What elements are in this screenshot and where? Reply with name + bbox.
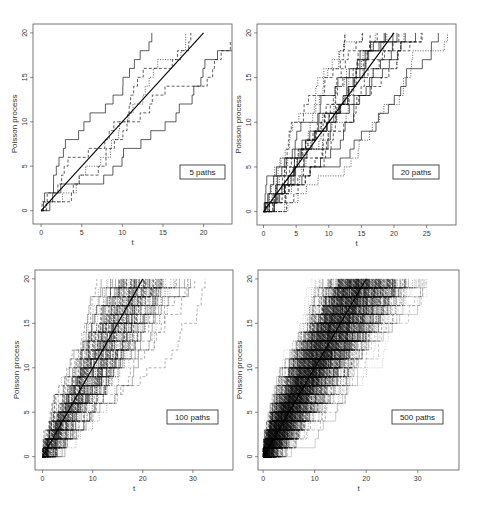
y-tick-label: 0 <box>246 455 253 459</box>
legend-box: 100 paths <box>167 410 218 424</box>
x-axis-label: t <box>133 484 136 493</box>
y-tick-label: 0 <box>245 210 252 214</box>
legend-box: 5 paths <box>180 165 225 179</box>
x-axis-label: t <box>357 484 360 493</box>
legend-box: 20 paths <box>393 165 439 179</box>
x-tick-label: 10 <box>118 229 126 236</box>
x-tick-label: 0 <box>261 475 265 482</box>
x-tick-label: 20 <box>362 475 370 482</box>
x-tick-label: 30 <box>189 475 197 482</box>
paths-group <box>263 279 427 457</box>
mean-line <box>41 33 203 211</box>
x-axis-label: t <box>355 239 358 248</box>
y-axis-label: Poisson process <box>12 341 21 400</box>
x-tick-label: 20 <box>200 229 208 236</box>
legend-label: 5 paths <box>189 168 215 177</box>
x-tick-label: 15 <box>357 230 365 237</box>
mean-line <box>43 279 143 457</box>
x-tick-label: 0 <box>41 475 45 482</box>
x-tick-label: 10 <box>325 230 333 237</box>
y-tick-label: 10 <box>246 364 253 372</box>
y-tick-label: 20 <box>245 29 252 37</box>
legend-label: 20 paths <box>401 168 432 177</box>
y-tick-label: 5 <box>23 410 30 414</box>
y-tick-label: 15 <box>23 319 30 327</box>
paths-group <box>264 33 448 212</box>
x-tick-label: 0 <box>39 229 43 236</box>
chart-panel-4: 010203005101520tPoisson process500 paths <box>235 270 459 493</box>
y-tick-label: 20 <box>21 29 28 37</box>
x-tick-label: 30 <box>414 475 422 482</box>
legend-label: 500 paths <box>400 413 435 422</box>
chart-panel-2: 051015202505101520tPoisson process20 pat… <box>234 24 456 248</box>
paths-group <box>43 279 206 457</box>
figure: 0510152005101520tPoisson process5 paths0… <box>0 0 480 511</box>
y-axis-label: Poisson process <box>234 95 243 154</box>
x-tick-label: 15 <box>159 229 167 236</box>
chart-panel-1: 0510152005101520tPoisson process5 paths <box>10 24 249 247</box>
x-tick-label: 10 <box>89 475 97 482</box>
y-axis-label: Poisson process <box>10 95 19 154</box>
plot-frame <box>257 24 456 225</box>
legend-label: 100 paths <box>175 413 210 422</box>
chart-panel-3: 010203005101520tPoisson process100 paths <box>12 270 233 493</box>
x-tick-label: 0 <box>262 230 266 237</box>
x-tick-label: 5 <box>294 230 298 237</box>
y-tick-label: 0 <box>21 209 28 213</box>
y-tick-label: 15 <box>21 73 28 81</box>
y-tick-label: 15 <box>246 319 253 327</box>
y-axis-label: Poisson process <box>235 341 244 400</box>
paths-group <box>41 33 249 211</box>
y-tick-label: 0 <box>23 455 30 459</box>
y-tick-label: 10 <box>23 364 30 372</box>
y-tick-label: 15 <box>245 74 252 82</box>
y-tick-label: 20 <box>23 275 30 283</box>
x-axis-label: t <box>131 238 134 247</box>
x-tick-label: 20 <box>390 230 398 237</box>
y-tick-label: 5 <box>245 165 252 169</box>
y-tick-label: 5 <box>246 410 253 414</box>
x-tick-label: 5 <box>80 229 84 236</box>
y-tick-label: 10 <box>21 118 28 126</box>
legend-box: 500 paths <box>392 410 443 424</box>
x-tick-label: 25 <box>423 230 431 237</box>
y-tick-label: 20 <box>246 275 253 283</box>
x-tick-label: 10 <box>311 475 319 482</box>
x-tick-label: 20 <box>139 475 147 482</box>
y-tick-label: 5 <box>21 164 28 168</box>
y-tick-label: 10 <box>245 118 252 126</box>
